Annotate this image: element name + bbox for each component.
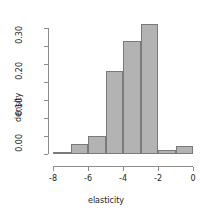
histogram-figure: 0.000.100.200.30-8-6-4-20elasticitydensi… xyxy=(0,0,206,215)
x-axis-tick xyxy=(53,167,54,171)
y-axis-tick xyxy=(44,136,48,137)
x-axis-tick xyxy=(123,167,124,171)
x-axis-tick-label: 0 xyxy=(178,174,206,183)
histogram-bar xyxy=(106,71,124,154)
y-axis-tick xyxy=(44,64,48,65)
histogram-bar xyxy=(53,152,71,154)
histogram-bar xyxy=(176,146,194,154)
x-axis-tick-label: -2 xyxy=(143,174,173,183)
y-axis-tick xyxy=(44,28,48,29)
y-axis-tick xyxy=(44,46,48,47)
histogram-bar xyxy=(123,41,141,154)
y-axis-tick xyxy=(44,118,48,119)
y-axis-line xyxy=(48,28,49,154)
x-axis-tick xyxy=(193,167,194,171)
y-axis-tick xyxy=(44,154,48,155)
y-axis-tick xyxy=(44,82,48,83)
histogram-bar xyxy=(158,150,176,154)
x-axis-tick-label: -6 xyxy=(73,174,103,183)
y-axis-tick-label: 0.30 xyxy=(15,26,25,66)
x-axis-title: elasticity xyxy=(18,196,194,205)
histogram-bar xyxy=(71,144,89,154)
x-axis-tick-label: -4 xyxy=(108,174,138,183)
y-axis-tick xyxy=(44,100,48,101)
x-axis-tick-label: -8 xyxy=(38,174,68,183)
x-axis-tick xyxy=(88,167,89,171)
histogram-bar xyxy=(88,136,106,154)
y-axis-title: density xyxy=(14,93,23,122)
histogram-bar xyxy=(141,24,159,154)
plot-area: 0.000.100.200.30-8-6-4-20elasticitydensi… xyxy=(0,0,206,215)
x-axis-tick xyxy=(158,167,159,171)
y-axis-tick-label: 0.00 xyxy=(15,134,25,174)
